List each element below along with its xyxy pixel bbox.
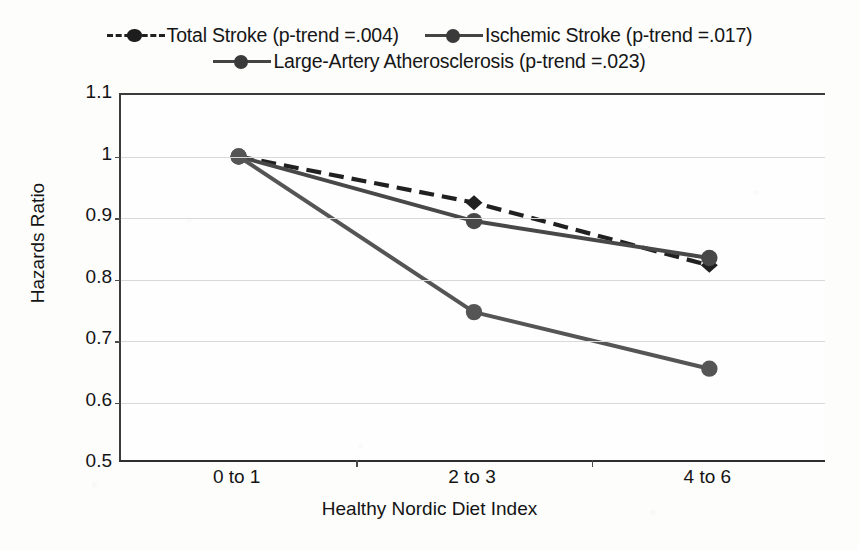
- y-axis-tick-label: 0.8: [60, 266, 112, 288]
- x-axis-title: Healthy Nordic Diet Index: [0, 498, 859, 520]
- gridline: [121, 280, 825, 281]
- gridline: [121, 218, 825, 219]
- series-3: [230, 148, 717, 377]
- data-point-marker: [466, 213, 482, 229]
- y-axis-tick-label: 0.7: [60, 327, 112, 349]
- y-axis-tick-label: 0.6: [60, 389, 112, 411]
- y-axis-tick-mark: [115, 403, 121, 405]
- series-line: [239, 157, 710, 266]
- series-line: [239, 157, 710, 369]
- y-axis-tick-mark: [115, 157, 121, 159]
- data-point-marker: [701, 360, 717, 376]
- x-axis-tick-mark: [592, 460, 594, 467]
- x-axis-tick-label: 2 to 3: [448, 466, 496, 488]
- y-axis-tick-mark: [115, 218, 121, 220]
- y-axis-tick-label: 1.1: [60, 81, 112, 103]
- data-point-marker: [466, 304, 482, 320]
- y-axis-tick-mark: [115, 280, 121, 282]
- y-axis-title: Hazards Ratio: [27, 143, 49, 343]
- series-1: [230, 149, 718, 273]
- y-axis-tick-label: 1: [60, 143, 112, 165]
- x-axis-tick-mark: [356, 460, 358, 467]
- plot-area: [119, 93, 825, 462]
- y-axis-tick-labels: 1.110.90.80.70.60.5: [56, 0, 112, 551]
- y-axis-tick-label: 0.9: [60, 204, 112, 226]
- gridline: [121, 403, 825, 404]
- gridline: [121, 341, 825, 342]
- x-axis-tick-label: 0 to 1: [213, 466, 261, 488]
- hazards-ratio-line-chart: Total Stroke (p-trend =.004) Ischemic St…: [0, 0, 859, 551]
- y-axis-tick-label: 0.5: [60, 450, 112, 472]
- gridline: [121, 157, 825, 158]
- data-point-marker: [701, 250, 717, 266]
- data-point-marker: [466, 195, 483, 210]
- x-axis-tick-label: 4 to 6: [684, 466, 732, 488]
- plot-container: Hazards Ratio Healthy Nordic Diet Index …: [0, 0, 859, 551]
- y-axis-tick-mark: [115, 341, 121, 343]
